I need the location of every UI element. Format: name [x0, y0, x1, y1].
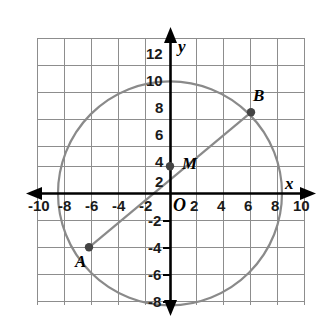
y-tick-label--6: -6 — [148, 267, 161, 282]
x-tick-label-2: 2 — [190, 198, 198, 213]
origin-label: O — [173, 196, 186, 214]
y-axis-label: y — [178, 38, 186, 55]
plot-canvas — [0, 0, 329, 329]
y-tick-label-6: 6 — [155, 127, 163, 142]
x-tick-label--4: -4 — [112, 198, 125, 213]
y-tick-label-2: 2 — [155, 174, 163, 189]
point-label-a: A — [75, 253, 86, 270]
x-tick-label-10: 10 — [293, 198, 310, 213]
x-tick-label--10: -10 — [28, 198, 50, 213]
point-m-marker — [166, 162, 174, 170]
y-axis-arrow-up — [164, 27, 177, 43]
y-tick-label-4: 4 — [155, 154, 163, 169]
y-tick-label-8: 8 — [155, 100, 163, 115]
x-axis-label: x — [285, 175, 294, 192]
x-tick-label-4: 4 — [217, 198, 225, 213]
point-b-marker — [247, 108, 255, 116]
x-tick-label--8: -8 — [58, 198, 71, 213]
y-tick-label-10: 10 — [146, 73, 163, 88]
point-a-marker — [85, 243, 93, 251]
y-tick-label--8: -8 — [148, 294, 161, 309]
coordinate-plane-figure: -10 -8 -6 -4 -2 2 4 6 8 10 12 10 8 6 4 2… — [0, 0, 329, 329]
x-tick-label--6: -6 — [85, 198, 98, 213]
x-tick-label-8: 8 — [271, 198, 279, 213]
y-tick-label-12: 12 — [146, 46, 163, 61]
point-label-b: B — [253, 87, 264, 104]
y-tick-label--2: -2 — [148, 213, 161, 228]
x-tick-label-6: 6 — [244, 198, 252, 213]
x-tick-label--2: -2 — [139, 198, 152, 213]
y-tick-label--4: -4 — [148, 240, 161, 255]
point-label-m: M — [182, 155, 197, 172]
